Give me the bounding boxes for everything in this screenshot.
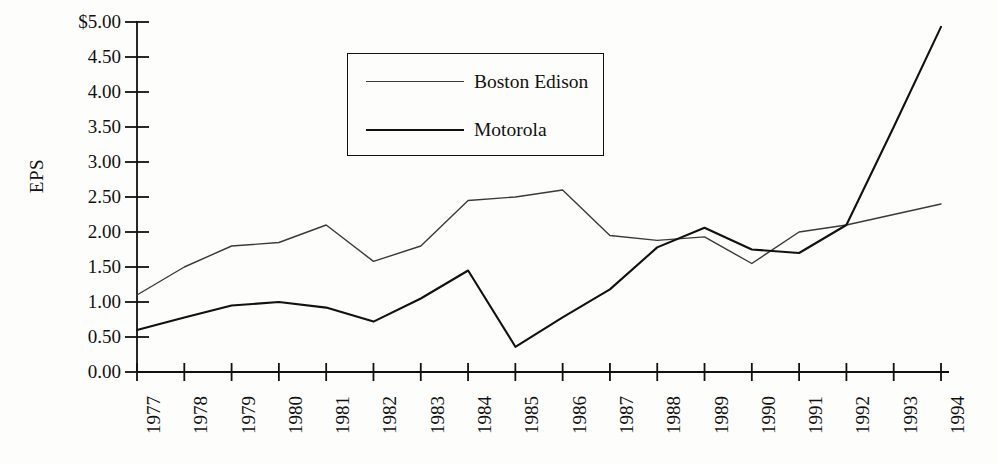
chart-container: EPS $5.004.504.003.503.002.502.001.501.0… <box>0 0 997 464</box>
legend-item-motorola: Motorola <box>348 116 603 144</box>
series-line-boston-edison <box>137 190 941 295</box>
legend-label-boston-edison: Boston Edison <box>474 68 588 95</box>
legend-item-boston-edison: Boston Edison <box>348 68 603 96</box>
legend-line-swatch-motorola <box>366 129 464 131</box>
chart-legend: Boston Edison Motorola <box>347 53 604 156</box>
legend-label-motorola: Motorola <box>474 116 547 143</box>
legend-line-swatch-boston-edison <box>366 81 464 82</box>
